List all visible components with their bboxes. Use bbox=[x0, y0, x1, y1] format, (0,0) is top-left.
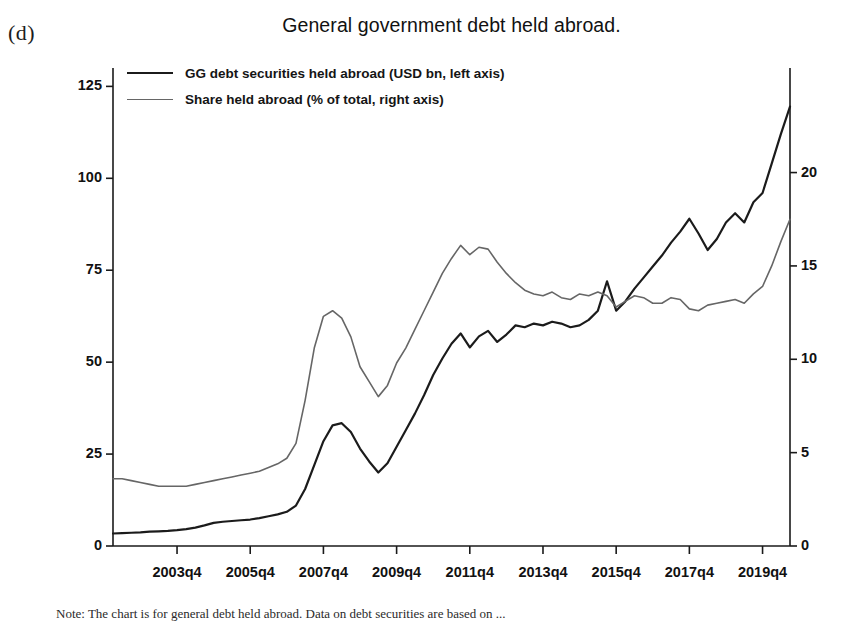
series-line-0 bbox=[113, 107, 790, 534]
axis-tick-label: 5 bbox=[801, 444, 841, 460]
axis-tick-label: 2017q4 bbox=[654, 564, 724, 580]
axis-tick-label: 2005q4 bbox=[215, 564, 285, 580]
legend-line-swatch-icon bbox=[127, 72, 173, 74]
axis-tick-label: 125 bbox=[40, 77, 102, 93]
axis-tick-label: 50 bbox=[40, 353, 102, 369]
axis-tick-label: 15 bbox=[801, 257, 841, 273]
chart-series-layer bbox=[113, 107, 790, 534]
axis-tick-label: 100 bbox=[40, 169, 102, 185]
axis-tick-label: 0 bbox=[801, 537, 841, 553]
axis-tick-label: 2011q4 bbox=[435, 564, 505, 580]
legend-item-share-held-abroad: Share held abroad (% of total, right axi… bbox=[127, 86, 505, 112]
axis-tick-label: 2015q4 bbox=[581, 564, 651, 580]
legend-label: Share held abroad (% of total, right axi… bbox=[185, 92, 444, 107]
legend-label: GG debt securities held abroad (USD bn, … bbox=[185, 66, 505, 81]
axis-tick-label: 2007q4 bbox=[288, 564, 358, 580]
axis-tick-label: 2013q4 bbox=[508, 564, 578, 580]
figure-caption: Note: The chart is for general debt held… bbox=[56, 606, 816, 621]
axis-tick-label: 2003q4 bbox=[142, 564, 212, 580]
axis-tick-label: 25 bbox=[40, 445, 102, 461]
axis-tick-label: 2019q4 bbox=[728, 564, 798, 580]
legend-item-gg-debt-securities: GG debt securities held abroad (USD bn, … bbox=[127, 60, 505, 86]
axis-tick-label: 75 bbox=[40, 261, 102, 277]
axis-tick-label: 2009q4 bbox=[362, 564, 432, 580]
legend-line-swatch-icon bbox=[127, 99, 173, 100]
series-line-1 bbox=[113, 219, 790, 486]
chart-legend: GG debt securities held abroad (USD bn, … bbox=[127, 60, 505, 112]
axis-tick-label: 0 bbox=[40, 537, 102, 553]
figure-container: (d) General government debt held abroad.… bbox=[0, 0, 844, 621]
axis-tick-label: 20 bbox=[801, 164, 841, 180]
axis-tick-label: 10 bbox=[801, 350, 841, 366]
